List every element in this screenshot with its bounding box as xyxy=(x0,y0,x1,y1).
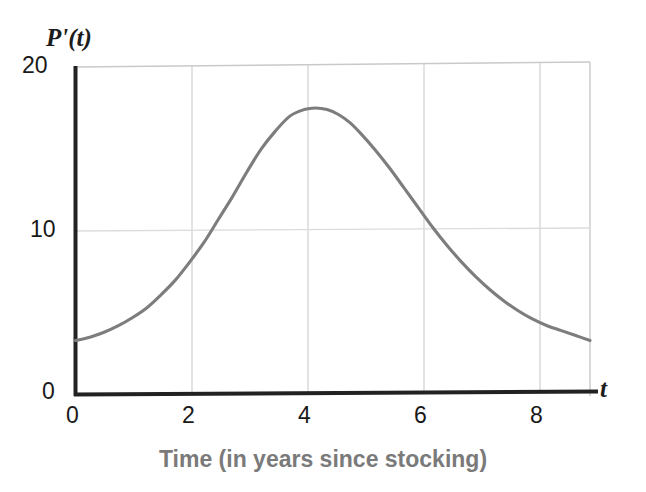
curve-p-prime-of-t xyxy=(76,108,591,341)
x-axis-line xyxy=(74,392,598,395)
gridline-y-10 xyxy=(74,228,590,231)
y-tick-label-0: 0 xyxy=(42,378,55,405)
chart-figure: P'(t) t 20 10 0 0 2 4 6 8 Time (in years… xyxy=(0,0,646,492)
x-tick-label-8: 8 xyxy=(530,402,543,429)
y-tick-label-10: 10 xyxy=(30,216,56,243)
plot-border-top xyxy=(74,62,590,67)
x-axis-variable-label: t xyxy=(600,375,607,403)
chart-plot-area xyxy=(0,0,646,492)
y-tick-label-20: 20 xyxy=(22,52,48,79)
x-axis-title: Time (in years since stocking) xyxy=(0,446,646,473)
x-tick-label-0: 0 xyxy=(66,402,79,429)
x-tick-label-2: 2 xyxy=(182,402,195,429)
y-axis-label: P'(t) xyxy=(46,24,92,52)
x-tick-label-6: 6 xyxy=(414,402,427,429)
x-tick-label-4: 4 xyxy=(298,402,311,429)
